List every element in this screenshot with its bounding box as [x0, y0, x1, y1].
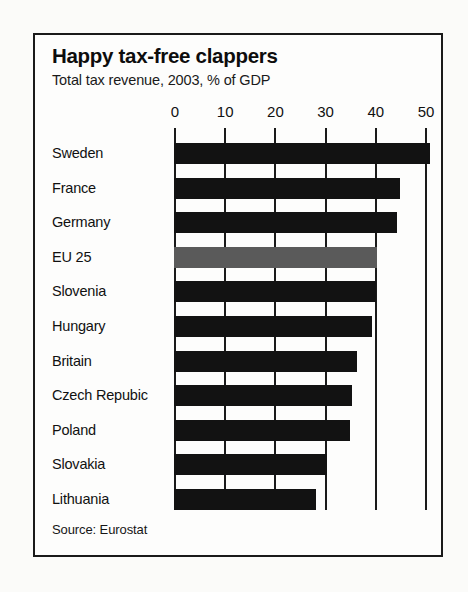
category-label: Poland — [52, 422, 96, 438]
tick-mark-0 — [174, 128, 176, 141]
chart-frame: Happy tax-free clappers Total tax revenu… — [33, 33, 443, 557]
category-label: EU 25 — [52, 249, 91, 265]
bar — [174, 351, 357, 372]
gridline-50 — [425, 139, 427, 510]
tick-mark-20 — [274, 128, 276, 141]
tick-mark-10 — [224, 128, 226, 141]
x-tick-label: 20 — [267, 103, 284, 120]
category-label: Slovenia — [52, 283, 106, 299]
bar — [174, 281, 376, 302]
x-tick-label: 30 — [317, 103, 334, 120]
bar — [174, 489, 316, 510]
bar — [174, 247, 377, 268]
plot-area: 01020304050 SwedenFranceGermanyEU 25Slov… — [35, 35, 441, 555]
x-tick-label: 0 — [171, 103, 179, 120]
category-label: Lithuania — [52, 491, 109, 507]
x-tick-label: 40 — [367, 103, 384, 120]
source-note: Source: Eurostat — [52, 522, 147, 537]
category-label: Czech Repubic — [52, 387, 148, 403]
category-label: Germany — [52, 214, 110, 230]
x-tick-label: 10 — [217, 103, 234, 120]
bar — [174, 178, 400, 199]
scanned-page: Happy tax-free clappers Total tax revenu… — [0, 0, 468, 592]
x-tick-label: 50 — [418, 103, 435, 120]
bar — [174, 454, 327, 475]
category-label: France — [52, 180, 96, 196]
bar — [174, 420, 350, 441]
tick-mark-40 — [375, 128, 377, 141]
category-label: Britain — [52, 353, 92, 369]
category-label: Hungary — [52, 318, 105, 334]
tick-mark-30 — [325, 128, 327, 141]
tick-mark-50 — [425, 128, 427, 141]
bar — [174, 385, 352, 406]
bar — [174, 212, 397, 233]
category-label: Slovakia — [52, 456, 105, 472]
bar — [174, 316, 372, 337]
category-label: Sweden — [52, 145, 103, 161]
bar — [174, 143, 430, 164]
